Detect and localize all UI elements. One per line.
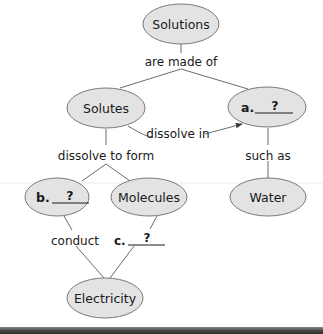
edge-link-b <box>82 164 106 181</box>
node-electricity: Electricity <box>67 278 143 318</box>
node-solutions-label: Solutions <box>152 17 209 32</box>
edge-link-solutes <box>120 69 181 88</box>
node-electricity-label: Electricity <box>74 291 137 306</box>
link-dissolve-to-form: dissolve to form <box>58 149 154 163</box>
edge-b-conduct <box>64 216 72 230</box>
node-water: Water <box>230 178 306 216</box>
concept-map: Solutions Solutes a. ? b. ? Molecules Wa… <box>0 0 323 334</box>
node-solutes: Solutes <box>67 88 145 128</box>
node-solutes-label: Solutes <box>83 101 129 116</box>
edge-dissolvein-a-arrow <box>205 124 242 134</box>
edge-link-a <box>181 69 248 89</box>
edge-molecules-c <box>150 216 157 229</box>
link-such-as: such as <box>245 149 290 163</box>
node-b: b. ? <box>25 178 89 216</box>
edge-conduct-electricity <box>76 246 104 278</box>
edge-link-molecules <box>106 164 130 181</box>
node-molecules-label: Molecules <box>118 190 180 205</box>
node-solutions: Solutions <box>143 4 219 44</box>
link-dissolve-in: dissolve in <box>146 127 209 141</box>
node-molecules: Molecules <box>111 178 187 216</box>
node-a-blank: ? <box>271 98 278 113</box>
node-a: a. ? <box>228 87 306 127</box>
link-are-made-of: are made of <box>145 55 218 69</box>
node-b-prefix: b. <box>36 190 50 205</box>
node-b-blank: ? <box>66 188 73 203</box>
node-a-prefix: a. <box>241 100 254 115</box>
link-conduct: conduct <box>51 234 99 248</box>
edge-c-electricity <box>110 246 134 278</box>
node-water-label: Water <box>250 190 288 205</box>
link-c-blank: ? <box>144 231 151 245</box>
bottom-bar <box>0 327 323 334</box>
link-c-prefix: c. <box>114 234 126 248</box>
